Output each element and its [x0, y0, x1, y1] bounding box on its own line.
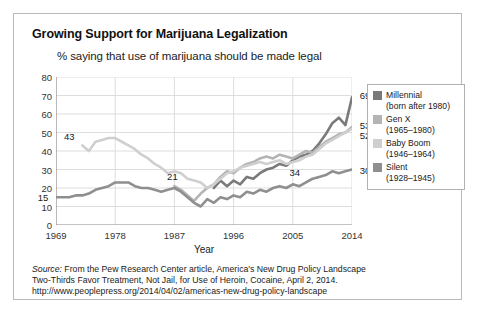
legend-item-baby-boom[interactable]: Baby Boom(1946–1964) — [373, 138, 460, 159]
legend-label: Gen X(1965–1980) — [386, 114, 435, 135]
data-point-label: 43 — [64, 131, 75, 142]
y-tick-label: 50 — [30, 127, 52, 138]
source-line-1: Source: From the Pew Research Center art… — [32, 264, 392, 275]
source-note: Source: From the Pew Research Center art… — [32, 264, 392, 298]
y-tick-label: 40 — [30, 146, 52, 157]
legend-color-swatch — [373, 115, 382, 124]
legend-label: Millennial(born after 1980) — [386, 90, 450, 111]
legend-label: Baby Boom(1946–1964) — [386, 138, 435, 159]
data-point-label: 21 — [167, 171, 178, 182]
source-line-3: http://www.peoplepress.org/2014/04/02/am… — [32, 286, 392, 297]
legend-color-swatch — [373, 163, 382, 172]
x-tick-label: 1969 — [45, 230, 66, 241]
y-tick-label: 30 — [30, 164, 52, 175]
plot-area: 1543213469535230 — [56, 77, 352, 225]
legend-label-name: Millennial — [386, 90, 450, 101]
legend-label-detail: (1928–1945) — [386, 173, 435, 184]
legend-item-silent[interactable]: Silent(1928–1945) — [373, 162, 460, 183]
source-line-2: Two-Thirds Favor Treatment, Not Jail, fo… — [32, 275, 392, 286]
legend-color-swatch — [373, 139, 382, 148]
x-axis-ticks: 196919781987199620052014 — [56, 228, 352, 242]
source-line-1-text: From the Pew Research Center article, Am… — [62, 264, 366, 274]
legend-label: Silent(1928–1945) — [386, 162, 435, 183]
y-tick-label: 0 — [30, 220, 52, 231]
legend-label-detail: (1965–1980) — [386, 125, 435, 136]
x-tick-label: 1987 — [164, 230, 185, 241]
legend-label-detail: (1946–1964) — [386, 149, 435, 160]
source-prefix: Source: — [32, 264, 62, 274]
y-axis-ticks: 01020304050607080 — [28, 77, 52, 225]
line-chart-svg — [56, 77, 352, 225]
legend-label-detail: (born after 1980) — [386, 101, 450, 112]
data-point-label: 34 — [290, 167, 301, 178]
legend-label-name: Silent — [386, 162, 435, 173]
legend-label-name: Baby Boom — [386, 138, 435, 149]
x-tick-label: 2014 — [341, 230, 362, 241]
legend-item-millennial[interactable]: Millennial(born after 1980) — [373, 90, 460, 111]
chart-subtitle: % saying that use of marijuana should be… — [57, 50, 322, 62]
x-tick-label: 2005 — [282, 230, 303, 241]
figure-frame: Growing Support for Marijuana Legalizati… — [13, 13, 462, 300]
page-title: Growing Support for Marijuana Legalizati… — [32, 27, 288, 41]
y-tick-label: 70 — [30, 90, 52, 101]
y-tick-label: 60 — [30, 109, 52, 120]
x-axis-title: Year — [56, 244, 352, 255]
legend-label-name: Gen X — [386, 114, 435, 125]
series-line-millennial — [214, 97, 352, 188]
y-tick-label: 80 — [30, 72, 52, 83]
x-tick-label: 1996 — [223, 230, 244, 241]
x-tick-label: 1978 — [105, 230, 126, 241]
legend: Millennial(born after 1980)Gen X(1965–19… — [367, 84, 465, 190]
legend-item-gen-x[interactable]: Gen X(1965–1980) — [373, 114, 460, 135]
data-point-label: 15 — [38, 192, 49, 203]
legend-color-swatch — [373, 91, 382, 100]
